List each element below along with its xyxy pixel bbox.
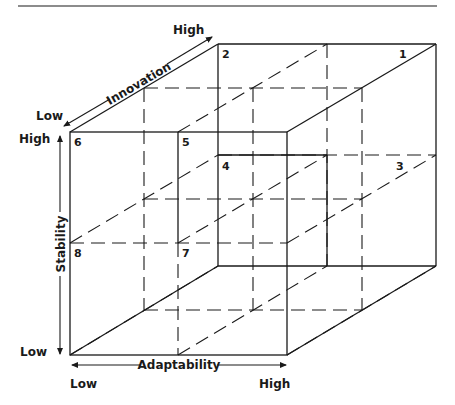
stability-axis: Stability High Low [19, 132, 68, 359]
innovation-low-label: Low [36, 109, 63, 123]
cell-label-7: 7 [182, 247, 190, 260]
cell-label-5: 5 [182, 136, 190, 149]
stability-axis-label: Stability [54, 215, 68, 272]
innovation-high-label: High [173, 23, 204, 37]
adaptability-low-label: Low [70, 377, 97, 391]
innovation-axis: Innovation High Low [36, 23, 212, 126]
cell-labels: 1 2 3 4 5 6 7 8 [74, 48, 407, 260]
innovation-axis-label: Innovation [104, 59, 173, 108]
adaptability-high-label: High [259, 377, 290, 391]
cell-label-8: 8 [74, 247, 82, 260]
cell-label-3: 3 [396, 160, 404, 173]
stability-high-label: High [19, 132, 50, 146]
cell-label-1: 1 [399, 48, 407, 61]
cell-label-6: 6 [74, 136, 82, 149]
cell-label-2: 2 [222, 48, 230, 61]
cell-label-4: 4 [222, 160, 230, 173]
stability-low-label: Low [20, 345, 47, 359]
adaptability-axis-label: Adaptability [138, 358, 221, 372]
cube-diagram: Innovation High Low Stability High Low A… [0, 0, 455, 405]
adaptability-axis: Adaptability Low High [70, 358, 290, 391]
